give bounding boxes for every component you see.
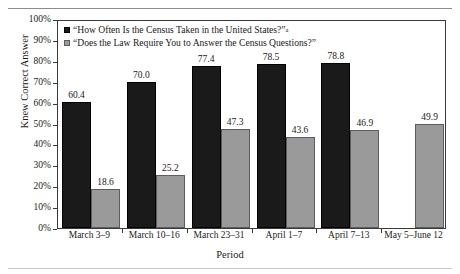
y-axis-tick-label: 40% xyxy=(3,140,51,150)
legend-footnote-marker: a xyxy=(286,24,289,37)
top-horizontal-rule xyxy=(8,8,452,9)
y-axis-tick-label: 30% xyxy=(3,161,51,171)
bar-value-label: 25.2 xyxy=(149,164,192,174)
chart-legend: “How Often Is the Census Taken in the Un… xyxy=(64,24,316,49)
bar-value-label: 60.4 xyxy=(55,91,98,101)
legend-item-label: “How Often Is the Census Taken in the Un… xyxy=(73,24,286,37)
bar-series2-2 xyxy=(221,129,250,228)
legend-item-0: “How Often Is the Census Taken in the Un… xyxy=(64,24,316,37)
y-axis-title: Knew Correct Answer xyxy=(19,22,30,142)
bar-series2-4 xyxy=(350,130,379,228)
bar-series2-3 xyxy=(286,137,315,228)
x-axis-tick-mark xyxy=(316,229,317,233)
x-axis-tick-mark xyxy=(381,229,382,233)
bottom-horizontal-rule xyxy=(8,268,452,269)
bar-value-label: 43.6 xyxy=(279,126,322,136)
plot-area: 60.418.670.025.277.447.378.543.678.846.9… xyxy=(57,20,446,229)
bars-layer: 60.418.670.025.277.447.378.543.678.846.9… xyxy=(58,21,445,228)
legend-item-label: “Does the Law Require You to Answer the … xyxy=(73,37,316,50)
page-top-caption xyxy=(10,0,450,5)
y-axis-tick-mark xyxy=(53,229,57,230)
bar-value-label: 47.3 xyxy=(214,118,257,128)
bar-series2-1 xyxy=(156,175,185,228)
bar-value-label: 49.9 xyxy=(408,113,451,123)
x-axis-title: Period xyxy=(0,249,460,260)
x-axis-tick-mark xyxy=(122,229,123,233)
bar-series1-1 xyxy=(127,82,156,228)
bar-value-label: 70.0 xyxy=(120,71,163,81)
x-axis-tick-mark xyxy=(252,229,253,233)
bar-series1-2 xyxy=(192,66,221,228)
figure-page: 0%10%20%30%40%50%60%70%80%90%100% Knew C… xyxy=(0,0,460,274)
legend-item-1: “Does the Law Require You to Answer the … xyxy=(64,37,316,50)
bar-value-label: 46.9 xyxy=(343,119,386,129)
bar-series2-0 xyxy=(91,189,120,228)
bar-value-label: 78.8 xyxy=(314,52,357,62)
bar-series2-5 xyxy=(415,124,444,228)
bar-value-label: 18.6 xyxy=(84,178,127,188)
bar-value-label: 78.5 xyxy=(250,53,293,63)
bar-series1-4 xyxy=(321,63,350,228)
gray-square-swatch xyxy=(64,40,70,46)
x-axis-tick-mark xyxy=(187,229,188,233)
bar-value-label: 77.4 xyxy=(185,55,228,65)
bar-series1-3 xyxy=(257,64,286,228)
bar-series1-0 xyxy=(62,102,91,228)
black-square-swatch xyxy=(64,27,70,33)
y-axis-tick-label: 20% xyxy=(3,182,51,192)
y-axis-tick-label: 10% xyxy=(3,203,51,213)
